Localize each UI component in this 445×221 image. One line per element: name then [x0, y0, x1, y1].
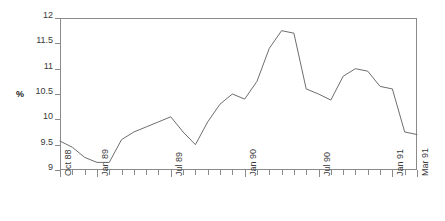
series-layer [0, 0, 445, 221]
line-chart: 99.51010.51111.512 Oct 88Jan 89Jul 89Jan… [0, 0, 445, 221]
data-series-line [60, 31, 417, 163]
